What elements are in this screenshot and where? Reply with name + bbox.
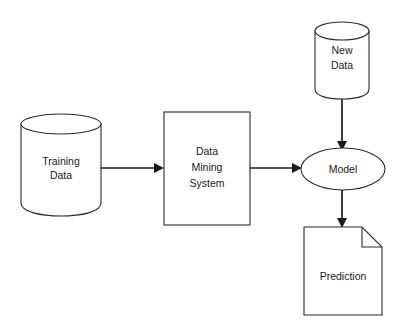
edge-training-data-to-data-mining-system	[101, 163, 164, 173]
data-mining-system-label-line2: Mining	[192, 161, 223, 173]
new-data-label-line1: New	[331, 44, 352, 56]
training-data-label-line2: Data	[50, 169, 72, 181]
node-new-data[interactable]: New Data	[315, 22, 369, 99]
data-mining-system-label-line1: Data	[196, 145, 218, 157]
model-label: Model	[329, 163, 358, 175]
edge-new-data-to-model	[337, 99, 347, 151]
data-mining-system-label-line3: System	[189, 177, 224, 189]
diagram-canvas: Training Data Data Mining System New Dat…	[0, 0, 401, 327]
node-model[interactable]: Model	[301, 148, 385, 190]
arrow-head-right	[154, 163, 164, 173]
edge-model-to-prediction	[337, 190, 347, 228]
prediction-label: Prediction	[320, 270, 367, 282]
training-data-label-line1: Training	[42, 155, 80, 167]
data-mining-flow-diagram: Training Data Data Mining System New Dat…	[0, 0, 401, 327]
node-data-mining-system[interactable]: Data Mining System	[164, 112, 250, 225]
new-data-label-line2: Data	[331, 59, 353, 71]
edge-data-mining-system-to-model	[250, 163, 302, 173]
node-prediction[interactable]: Prediction	[304, 227, 382, 315]
training-data-cylinder-top	[21, 114, 101, 134]
node-training-data[interactable]: Training Data	[21, 114, 101, 216]
new-data-cylinder-top	[315, 22, 369, 40]
